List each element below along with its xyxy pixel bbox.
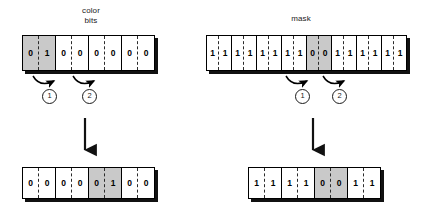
color-bits-label: color bits bbox=[56, 6, 126, 25]
color-bits-top-array: 0 1 0 0 0 0 0 0 bbox=[22, 35, 155, 71]
shift-arrow-2-right bbox=[323, 76, 344, 84]
bit-group: 1 1 bbox=[282, 36, 307, 70]
bit-cell: 0 bbox=[307, 36, 319, 70]
bit-group: 1 1 bbox=[207, 36, 232, 70]
bit-cell: 0 bbox=[331, 168, 347, 198]
bit-cell: 1 bbox=[219, 36, 231, 70]
bit-cell: 1 bbox=[294, 36, 306, 70]
bit-cell: 1 bbox=[244, 36, 256, 70]
bit-cell: 1 bbox=[298, 168, 314, 198]
bit-group: 0 0 bbox=[122, 36, 154, 70]
bit-cell: 0 bbox=[89, 168, 105, 198]
bit-cell: 1 bbox=[265, 168, 281, 198]
mask-label: mask bbox=[266, 14, 336, 24]
bit-group: 1 1 bbox=[282, 168, 315, 198]
bit-cell: 0 bbox=[56, 168, 72, 198]
bit-group: 0 0 bbox=[307, 36, 332, 70]
bit-group: 1 1 bbox=[332, 36, 357, 70]
bit-cell: 1 bbox=[269, 36, 281, 70]
bit-group: 0 0 bbox=[122, 168, 154, 198]
bit-cell: 1 bbox=[344, 36, 356, 70]
bit-cell: 0 bbox=[315, 168, 331, 198]
mask-bottom-array: 1 1 1 1 0 0 1 1 bbox=[248, 167, 381, 199]
bit-cell: 0 bbox=[23, 36, 39, 70]
shift-arrow-1-right bbox=[286, 76, 307, 84]
bit-cell: 1 bbox=[105, 168, 121, 198]
color-bits-bottom-array: 0 0 0 0 0 1 0 0 bbox=[22, 167, 155, 199]
bit-cell: 1 bbox=[282, 36, 294, 70]
bit-cell: 1 bbox=[232, 36, 244, 70]
bit-cell: 1 bbox=[394, 36, 406, 70]
bit-group: 1 1 bbox=[357, 36, 382, 70]
bit-group: 1 1 bbox=[348, 168, 380, 198]
bit-cell: 0 bbox=[72, 36, 88, 70]
bit-cell: 0 bbox=[56, 36, 72, 70]
step-number-1-left: 1 bbox=[42, 89, 57, 104]
bit-group: 0 0 bbox=[315, 168, 348, 198]
bit-group: 0 1 bbox=[89, 168, 122, 198]
bit-cell: 1 bbox=[332, 36, 344, 70]
bit-group: 0 0 bbox=[56, 168, 89, 198]
shift-arrow-1-left bbox=[33, 76, 54, 84]
bit-cell: 1 bbox=[39, 36, 55, 70]
bit-group: 1 1 bbox=[382, 36, 406, 70]
bit-cell: 0 bbox=[122, 168, 138, 198]
bit-cell: 0 bbox=[23, 168, 39, 198]
bit-group: 1 1 bbox=[232, 36, 257, 70]
bit-group: 0 1 bbox=[23, 36, 56, 70]
bit-cell: 1 bbox=[348, 168, 364, 198]
bit-cell: 0 bbox=[138, 36, 154, 70]
bit-cell: 0 bbox=[39, 168, 55, 198]
bit-cell: 1 bbox=[282, 168, 298, 198]
bit-cell: 0 bbox=[72, 168, 88, 198]
bit-group: 0 0 bbox=[89, 36, 122, 70]
bit-cell: 1 bbox=[249, 168, 265, 198]
shift-arrow-2-left bbox=[73, 76, 94, 84]
bit-cell: 1 bbox=[369, 36, 381, 70]
bit-cell: 1 bbox=[207, 36, 219, 70]
step-number-1-right: 1 bbox=[295, 89, 310, 104]
bit-cell: 0 bbox=[319, 36, 331, 70]
bit-cell: 0 bbox=[89, 36, 105, 70]
diagram-canvas: color bits mask 0 1 0 0 0 0 0 0 1 1 1 1 bbox=[0, 0, 424, 218]
bit-cell: 0 bbox=[105, 36, 121, 70]
bit-group: 1 1 bbox=[257, 36, 282, 70]
bit-cell: 1 bbox=[357, 36, 369, 70]
mask-top-array: 1 1 1 1 1 1 1 1 0 0 1 1 1 1 1 1 bbox=[206, 35, 407, 71]
bit-cell: 0 bbox=[122, 36, 138, 70]
bit-cell: 1 bbox=[364, 168, 380, 198]
bit-group: 0 0 bbox=[23, 168, 56, 198]
bit-group: 1 1 bbox=[249, 168, 282, 198]
bit-cell: 1 bbox=[257, 36, 269, 70]
bit-group: 0 0 bbox=[56, 36, 89, 70]
step-number-2-left: 2 bbox=[82, 89, 97, 104]
bit-cell: 1 bbox=[382, 36, 394, 70]
step-number-2-right: 2 bbox=[332, 89, 347, 104]
bit-cell: 0 bbox=[138, 168, 154, 198]
